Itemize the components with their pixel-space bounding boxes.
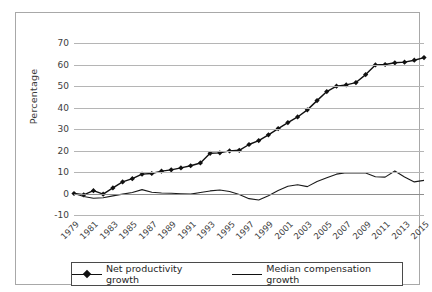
- data-point-marker: [178, 165, 183, 170]
- y-axis-tick-label: 0: [63, 189, 69, 199]
- x-axis-tick-label: 2005: [311, 219, 333, 241]
- gridline: [74, 151, 424, 152]
- x-axis-tick-label: 1999: [253, 219, 275, 241]
- data-point-marker: [421, 55, 426, 60]
- y-axis-tick-label: 20: [58, 146, 69, 156]
- plot-area: -10010203040506070: [74, 43, 424, 215]
- x-axis-tick-label: 2003: [292, 219, 314, 241]
- gridline: [74, 129, 424, 130]
- x-axis-tick-label: 2007: [331, 219, 353, 241]
- y-axis-tick-label: 70: [58, 38, 69, 48]
- series-line: [74, 58, 424, 195]
- gridline: [74, 194, 424, 195]
- x-axis-tick-label: 1981: [78, 219, 100, 241]
- gridline: [74, 65, 424, 66]
- chart-legend: Net productivity growth Median compensat…: [71, 262, 403, 286]
- x-axis-tick-label: 1997: [234, 219, 256, 241]
- chart-figure: Percentage -10010203040506070 1979198119…: [0, 0, 432, 292]
- legend-label: Median compensation growth: [266, 263, 402, 285]
- gridline: [74, 86, 424, 87]
- x-axis-tick-label: 1987: [136, 219, 158, 241]
- y-axis-label: Percentage: [28, 52, 39, 142]
- x-axis-tick-label: 1993: [195, 219, 217, 241]
- y-axis-tick-label: 50: [58, 81, 69, 91]
- legend-item-net-productivity-growth: Net productivity growth: [72, 263, 214, 285]
- y-axis-tick-label: -10: [54, 210, 69, 220]
- gridline: [74, 172, 424, 173]
- x-axis-tick-label: 1985: [117, 219, 139, 241]
- x-axis-ticks: 1979198119831985198719891991199319951997…: [74, 215, 424, 259]
- data-point-marker: [188, 163, 193, 168]
- gridline: [74, 108, 424, 109]
- series-line: [74, 171, 424, 200]
- data-point-marker: [130, 176, 135, 181]
- x-axis-tick-label: 2013: [389, 219, 411, 241]
- x-axis-tick-label: 2015: [409, 219, 431, 241]
- legend-item-median-compensation-growth: Median compensation growth: [232, 263, 402, 285]
- x-axis-tick-label: 1995: [214, 219, 236, 241]
- x-axis-tick-label: 2001: [273, 219, 295, 241]
- legend-label: Net productivity growth: [106, 263, 214, 285]
- x-axis-tick-label: 1991: [175, 219, 197, 241]
- line-marker-icon: [72, 269, 101, 279]
- x-axis-tick-label: 2009: [350, 219, 372, 241]
- gridline: [74, 43, 424, 44]
- line-icon: [232, 269, 261, 279]
- y-axis-tick-label: 40: [58, 103, 69, 113]
- chart-frame: Percentage -10010203040506070 1979198119…: [15, 12, 420, 285]
- y-axis-tick-label: 60: [58, 60, 69, 70]
- x-axis-tick-label: 1989: [156, 219, 178, 241]
- y-axis-tick-label: 30: [58, 124, 69, 134]
- y-axis-tick-label: 10: [58, 167, 69, 177]
- data-point-marker: [412, 58, 417, 63]
- x-axis-tick-label: 1983: [98, 219, 120, 241]
- x-axis-tick-label: 2011: [370, 219, 392, 241]
- x-axis-tick-label: 1979: [59, 219, 81, 241]
